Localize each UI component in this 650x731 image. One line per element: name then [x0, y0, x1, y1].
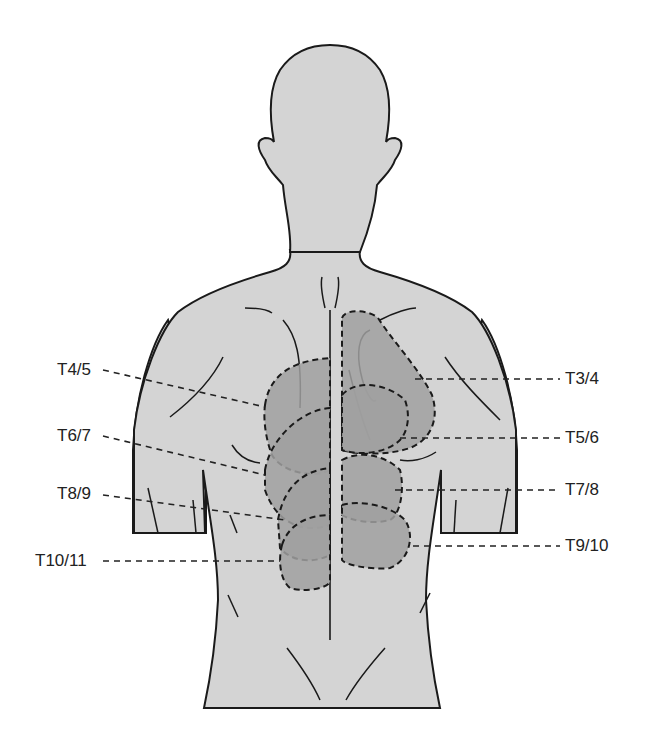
label-t5-6: T5/6 — [565, 429, 599, 447]
label-t9-10: T9/10 — [565, 537, 608, 555]
label-t6-7: T6/7 — [57, 427, 91, 445]
label-t7-8: T7/8 — [565, 481, 599, 499]
label-t4-5: T4/5 — [57, 361, 91, 379]
label-t8-9: T8/9 — [57, 485, 91, 503]
torso-illustration — [0, 0, 650, 731]
region-t5-6 — [342, 385, 408, 453]
label-t10-11: T10/11 — [35, 552, 87, 570]
dermatome-diagram: T4/5 T6/7 T8/9 T10/11 T3/4 T5/6 T7/8 T9/… — [0, 0, 650, 731]
label-t3-4: T3/4 — [565, 370, 599, 388]
